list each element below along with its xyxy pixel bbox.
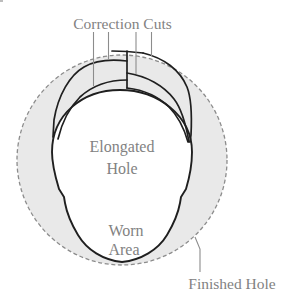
- correction-cuts-label: Correction Cuts: [73, 15, 172, 32]
- elongated-hole-label-line1: Elongated: [90, 138, 155, 156]
- worn-area-label-line1: Worn: [108, 222, 143, 239]
- finished-hole-label: Finished Hole: [188, 275, 276, 292]
- worn-hole-diagram: Correction Cuts Elongated Hole Worn Area…: [0, 0, 286, 300]
- leader-line-finished-hole: [195, 237, 200, 272]
- worn-area-label-line2: Area: [108, 241, 139, 258]
- elongated-hole-label-line2: Hole: [106, 160, 137, 177]
- diagram-canvas: Correction Cuts Elongated Hole Worn Area…: [0, 0, 286, 300]
- scan-speck: [0, 0, 3, 2]
